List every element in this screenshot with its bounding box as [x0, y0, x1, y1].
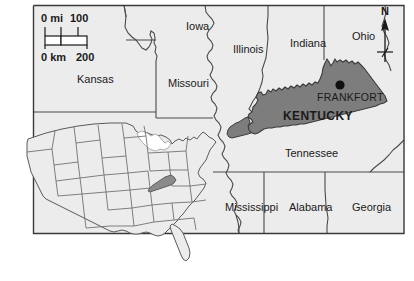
state-label-kentucky: KENTUCKY — [283, 110, 353, 122]
scale-bar-km-zero-label: 0 km — [41, 52, 66, 63]
scale-bar-miles-zero-label: 0 mi — [41, 13, 63, 24]
state-label-ohio: Ohio — [352, 31, 375, 42]
capital-label-frankfort: FRANKFORT — [317, 92, 384, 103]
state-label-georgia: Georgia — [352, 202, 391, 213]
state-label-indiana: Indiana — [290, 38, 326, 49]
state-label-mississippi: Mississippi — [225, 202, 278, 213]
state-label-illinois: Illinois — [233, 44, 264, 55]
state-label-tennessee: Tennessee — [285, 148, 338, 159]
kentucky-reference-map: 0 mi 100 0 km 200 N Iowa Illinois Indian… — [0, 0, 414, 281]
scale-bar-miles-max-label: 100 — [70, 13, 88, 24]
state-label-alabama: Alabama — [289, 202, 332, 213]
scale-bar-km-max-label: 200 — [76, 52, 94, 63]
capital-dot-icon — [335, 80, 344, 89]
state-label-kansas: Kansas — [77, 74, 114, 85]
map-graphic — [0, 0, 414, 281]
scale-bar-body — [45, 36, 87, 45]
united-states-locator-inset — [27, 123, 216, 261]
state-label-iowa: Iowa — [186, 21, 209, 32]
state-label-missouri: Missouri — [168, 78, 209, 89]
compass-north-label: N — [381, 6, 389, 17]
